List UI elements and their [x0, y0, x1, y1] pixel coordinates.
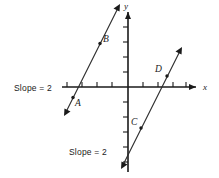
point-label-c: C [131, 117, 138, 127]
line-2-segment [123, 51, 180, 165]
graph-line-2 [121, 47, 182, 169]
slope-annotation-left: Slope = 2 [14, 83, 52, 93]
graph-line-1 [64, 4, 120, 116]
y-axis-arrow-icon [125, 12, 131, 19]
point-d-dot [165, 74, 168, 77]
y-axis [123, 12, 131, 172]
point-label-d: D [154, 64, 162, 74]
x-axis-label: x [202, 82, 207, 92]
y-axis-label: y [123, 1, 128, 11]
slope-annotation-bottom: Slope = 2 [69, 147, 107, 157]
coordinate-plane-svg: x y A B C D Slope = 2 Slope = 2 [0, 0, 219, 178]
x-axis-arrow-icon [189, 84, 196, 90]
math-figure: x y A B C D Slope = 2 Slope = 2 [0, 0, 219, 178]
point-b-dot [98, 42, 101, 45]
x-axis [62, 82, 196, 90]
point-c-dot [139, 126, 142, 129]
point-label-b: B [103, 34, 109, 44]
point-label-a: A [74, 98, 81, 108]
